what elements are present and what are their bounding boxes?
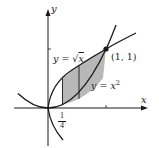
label-y-sqrt-x: y = √x [53, 54, 84, 64]
intersection-point [103, 46, 108, 51]
x-tick-label-one-quarter: 1 4 [58, 112, 66, 130]
label-y-x-squared: y = x2 [91, 80, 120, 91]
y-axis-arrow-icon [46, 9, 51, 16]
x-axis-arrow-icon [141, 106, 148, 111]
fraction-denominator: 4 [60, 121, 64, 130]
graph-figure: y x y = √x y = x2 (1, 1) 1 4 [0, 0, 159, 148]
graph-canvas [0, 0, 159, 148]
y-axis-label: y [51, 4, 57, 14]
intersection-label: (1, 1) [111, 52, 137, 62]
x-axis-label: x [141, 95, 147, 105]
fraction-numerator: 1 [60, 111, 64, 120]
